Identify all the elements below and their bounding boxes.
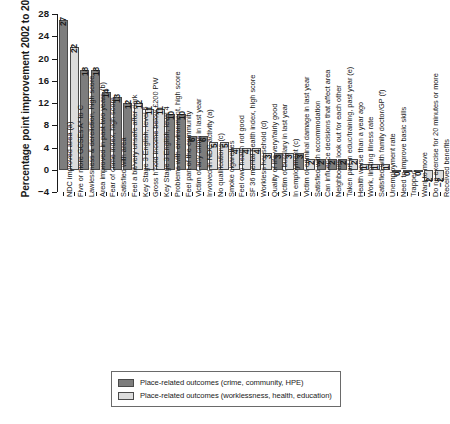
x-axis-label: Key Stage 3 English, level 5 — [142, 106, 150, 197]
x-tick — [128, 192, 129, 196]
y-tick: 8 — [52, 125, 57, 126]
x-axis-label: Need to improve basic skills — [400, 107, 408, 197]
x-axis-label: Unemployment rate — [389, 133, 397, 197]
x-axis-label: Feel own health not good — [238, 115, 246, 197]
x-axis-label: Want to move — [421, 152, 429, 197]
bar-value-label: 22 — [70, 44, 78, 53]
legend-swatch-icon — [118, 392, 134, 400]
y-tick-label: 0 — [44, 163, 49, 176]
x-tick — [171, 192, 172, 196]
x-axis-label: Health worse than a year ago — [357, 102, 365, 197]
x-axis-label: No qualifications (c) — [217, 133, 225, 197]
legend-item-label: Place-related outcomes (worklessness, he… — [140, 391, 332, 400]
legend-item-label: Place-related outcomes (crime, community… — [140, 378, 303, 387]
legend-item: Place-related outcomes (worklessness, he… — [118, 389, 334, 402]
x-axis-labels: NDC improved area (a)Five or more GCSEs … — [58, 197, 445, 347]
x-axis-label: Problems with environment, high score — [174, 72, 182, 198]
x-axis-label: Do no exercise for 20 minutes or more — [432, 73, 440, 197]
x-axis-label: Received benefits — [443, 139, 450, 197]
y-tick-label: 24 — [38, 29, 49, 42]
legend-item: Place-related outcomes (crime, community… — [118, 376, 334, 389]
y-tick-label: 28 — [38, 7, 49, 20]
x-tick — [429, 192, 430, 196]
x-tick — [257, 192, 258, 196]
y-tick: 24 — [52, 36, 57, 37]
x-axis-label: Key Stage 3 English, level 4 — [163, 106, 171, 197]
y-tick: −4 — [52, 192, 57, 193]
x-tick — [375, 192, 376, 196]
y-tick-label: 4 — [44, 141, 49, 154]
y-axis-title: Percentage point improvement 2002 to 200… — [20, 0, 31, 198]
x-axis-label: Work, limiting illness rate — [367, 117, 375, 197]
x-axis-label: Neighbours look out for each other — [335, 85, 343, 197]
x-tick — [332, 192, 333, 196]
y-tick: 0 — [52, 170, 57, 171]
x-tick — [418, 192, 419, 196]
x-axis-label: Victim of criminal damage in last year — [303, 77, 311, 197]
bar-chart: Percentage point improvement 2002 to 200… — [0, 0, 450, 424]
x-tick — [160, 192, 161, 196]
x-tick — [289, 192, 290, 196]
x-tick — [246, 192, 247, 196]
x-axis-label: Victim of burglary in last year — [281, 104, 289, 197]
x-axis-label: Gross h'hold income below £200 PW — [152, 78, 160, 197]
x-axis-label: Area improved in past two years (b) — [99, 82, 107, 197]
x-tick — [386, 192, 387, 196]
bar-value-label: 18 — [92, 66, 100, 75]
x-axis-label: SF 36 mental health index, high score — [249, 75, 257, 197]
legend: Place-related outcomes (crime, community… — [111, 371, 341, 407]
x-axis-label: Satisfied with family doctor/GP (f) — [378, 90, 386, 197]
x-axis-label: Trapped — [410, 170, 418, 197]
x-axis-label: Five or more GCSEs A* to C — [77, 105, 85, 197]
x-tick — [300, 192, 301, 196]
x-tick — [117, 192, 118, 196]
x-axis-label: Satisfied with area — [120, 138, 128, 197]
x-axis-label: Can influence decisions that affect area — [324, 70, 332, 197]
x-axis-label: Victim of any crime in last year — [195, 99, 203, 197]
x-axis-label: Feel a bit/very unsafe after dark — [131, 95, 139, 197]
x-tick — [85, 192, 86, 196]
x-axis-label: Smoke cigarettes — [228, 141, 236, 197]
x-tick — [203, 192, 204, 196]
y-tick-label: 20 — [38, 52, 49, 65]
y-tick-label: 16 — [38, 74, 49, 87]
y-tick-label: −4 — [38, 185, 49, 198]
x-axis-label: Fear of crime index, high score — [109, 97, 117, 197]
y-tick: 28 — [52, 14, 57, 15]
x-tick — [74, 192, 75, 196]
y-tick: 20 — [52, 59, 57, 60]
y-tick: 12 — [52, 103, 57, 104]
bar-value-label: 18 — [81, 66, 89, 75]
x-axis-label: Quality of life very/fairly good — [271, 104, 279, 197]
y-tick-label: 8 — [44, 118, 49, 131]
bar-value-label: 27 — [59, 16, 67, 25]
x-axis-label: Feel part of the community — [185, 111, 193, 197]
y-tick: 4 — [52, 148, 57, 149]
y-tick-label: 12 — [38, 96, 49, 109]
legend-swatch-icon — [118, 379, 134, 387]
x-tick — [343, 192, 344, 196]
x-axis-label: In employment (c) — [292, 139, 300, 197]
x-axis-label: Workless household (d) — [260, 121, 268, 197]
y-tick: 16 — [52, 81, 57, 82]
x-axis-label: Taken part in educ/training, past year (… — [346, 67, 354, 197]
x-axis-label: Involved in NDC activity (a) — [206, 109, 214, 197]
x-axis-label: NDC improved area (a) — [66, 122, 74, 197]
x-tick — [214, 192, 215, 196]
x-axis-label: Satisfied with accommodation — [314, 101, 322, 197]
x-axis-label: Lawlessness & dereliction, high score — [88, 76, 96, 197]
